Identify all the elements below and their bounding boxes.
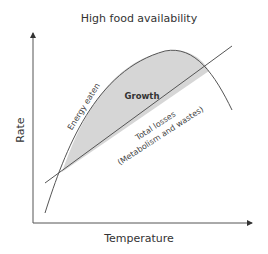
y-axis-label: Rate — [14, 117, 27, 142]
growth-label: Growth — [125, 91, 160, 101]
chart-title: High food availability — [81, 12, 198, 25]
diagram: High food availability Temperature Rate … — [0, 0, 268, 254]
x-axis-label: Temperature — [103, 232, 174, 245]
